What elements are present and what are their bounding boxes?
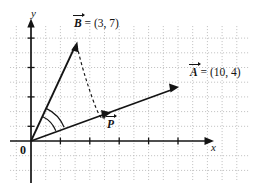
vector-b-label: B = (3, 7)	[74, 18, 119, 30]
vector-a-value: (10, 4)	[210, 66, 241, 78]
vector-p-symbol: P	[107, 119, 114, 131]
vector-b-symbol: B	[74, 18, 82, 30]
vector-projection-figure	[0, 0, 256, 183]
vector-p-label: P	[107, 119, 114, 131]
vector-b-equals: =	[85, 17, 92, 29]
origin-label: 0	[20, 144, 26, 156]
vector-a-symbol: A	[190, 67, 198, 79]
vector-b-value: (3, 7)	[94, 17, 119, 29]
vector-a-equals: =	[201, 66, 208, 78]
x-axis-label: x	[211, 142, 216, 153]
y-axis-label: y	[31, 8, 36, 19]
vector-a-label: A = (10, 4)	[190, 67, 241, 79]
